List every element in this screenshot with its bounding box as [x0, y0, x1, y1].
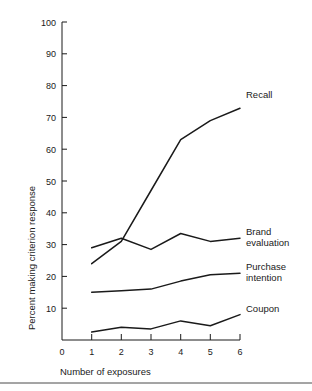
series-label-recall: Recall [246, 89, 272, 100]
series-label-purchase-intention-line1: Purchase [246, 261, 286, 272]
series-label-coupon: Coupon [246, 303, 279, 314]
x-axis-title: Number of exposures [60, 366, 151, 377]
y-tick-label: 60 [46, 145, 56, 155]
series-label-brand-evaluation-line2: evaluation [246, 237, 289, 248]
series-label-brand-evaluation-line1: Brand [246, 226, 271, 237]
x-tick-label: 3 [148, 347, 153, 357]
x-tick-label: 2 [119, 347, 124, 357]
y-tick-label: 10 [46, 304, 56, 314]
y-tick-label: 30 [46, 240, 56, 250]
y-tick-label: 40 [46, 208, 56, 218]
line-chart: 100 90 80 70 60 50 40 30 20 10 0 1 2 3 4 [0, 0, 312, 391]
y-axis-title: Percent making criterion response [26, 186, 37, 330]
x-tick-label: 5 [208, 347, 213, 357]
x-tick-label: 4 [178, 347, 183, 357]
y-tick-label: 50 [46, 177, 56, 187]
y-tick-label: 90 [46, 49, 56, 59]
x-tick-label: 6 [237, 347, 242, 357]
x-tick-label: 0 [59, 347, 64, 357]
y-tick-label: 20 [46, 272, 56, 282]
y-tick-label: 100 [41, 18, 56, 28]
x-tick-label: 1 [89, 347, 94, 357]
y-tick-label: 70 [46, 113, 56, 123]
series-label-purchase-intention-line2: intention [246, 272, 282, 283]
figure-container: 100 90 80 70 60 50 40 30 20 10 0 1 2 3 4 [0, 0, 312, 391]
y-tick-label: 80 [46, 81, 56, 91]
